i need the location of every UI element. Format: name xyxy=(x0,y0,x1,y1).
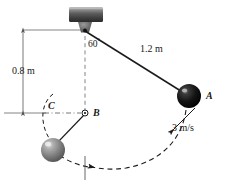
label-point-b: B xyxy=(93,108,100,118)
speed-label: 3 m/s xyxy=(172,123,194,133)
label-point-c: C xyxy=(48,101,55,111)
physics-diagram: 60° 1.2 m 0.8 m A B C 3 m/s xyxy=(0,0,225,186)
degree-symbol: ° xyxy=(98,37,101,44)
cord-peg-to-ball-b xyxy=(58,115,84,142)
pivot-point xyxy=(83,29,87,33)
swing-arc-large-tail xyxy=(62,157,88,167)
rod-length-label: 1.2 m xyxy=(140,44,163,54)
diagram-canvas xyxy=(0,0,225,186)
angle-label: 60° xyxy=(88,38,100,50)
drop-height-label: 0.8 m xyxy=(12,66,35,76)
ball-a[interactable] xyxy=(177,84,201,108)
peg-b[interactable] xyxy=(82,110,88,116)
ball-b-lower[interactable] xyxy=(41,138,65,162)
swing-arc-large xyxy=(92,110,186,169)
ceiling-support xyxy=(69,7,103,33)
label-point-a: A xyxy=(206,91,213,101)
